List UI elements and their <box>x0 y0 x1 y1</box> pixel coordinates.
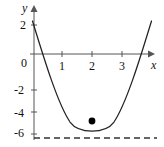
y-tick-label-minus-4: -4 <box>14 107 24 119</box>
x-tick-label-1: 1 <box>59 60 65 72</box>
parabola-curve <box>33 21 152 131</box>
x-tick-label-2: 2 <box>89 60 95 72</box>
y-axis-arrowhead <box>31 5 38 12</box>
y-tick-label-minus-2: -2 <box>14 84 24 96</box>
y-tick-label-2: 2 <box>20 19 26 31</box>
x-tick-label-3: 3 <box>119 60 125 72</box>
x-axis-arrowhead <box>148 51 155 58</box>
origin-label: 0 <box>21 57 27 69</box>
x-axis <box>30 51 155 58</box>
graph-figure: 2 0 -2 -4 -6 1 2 3 x y <box>0 0 164 147</box>
y-tick-label-minus-6: -6 <box>14 127 24 139</box>
y-axis-label: y <box>22 2 27 14</box>
x-axis-label: x <box>151 59 156 71</box>
marked-point <box>89 118 96 125</box>
